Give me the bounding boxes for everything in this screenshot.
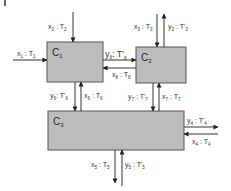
stream-y5-label: y5 : T'5 <box>125 161 145 170</box>
stream-x4-label: x4 : T4 <box>192 138 211 147</box>
stream-x2-label: x2 : T2 <box>48 23 67 32</box>
stream-y6-label: y6: T'6 <box>50 92 68 101</box>
stream-x3: x3 : T3 <box>134 14 157 47</box>
unit-c3: C3 <box>48 111 184 150</box>
stream-y4-label: y4 : T'4 <box>187 117 207 126</box>
stream-y6: y6: T'6 <box>50 82 75 111</box>
stream-y7-label: y7 : T'7 <box>128 93 148 102</box>
stream-y3-label: y3 : T'3 <box>168 23 188 32</box>
stream-y5: y5 : T'5 <box>122 150 145 186</box>
unit-c2: C2 <box>136 47 186 83</box>
stream-x7: x7 : T7 <box>159 83 181 111</box>
stream-x5: x5 : T5 <box>91 150 115 183</box>
unit-c1: C1 <box>47 42 103 82</box>
stream-y4: y4 : T'4 <box>184 117 218 127</box>
stream-y8-label: y8: T'8 <box>105 49 127 61</box>
stream-x3-label: x3 : T3 <box>134 23 153 32</box>
stream-x8: x8 : T8 <box>103 68 136 80</box>
c3-box <box>48 111 184 150</box>
stream-y3: y3 : T'3 <box>164 14 188 47</box>
stream-x1: x1 : T1 <box>13 50 47 60</box>
stream-x2: x2 : T2 <box>48 12 73 42</box>
stream-x7-label: x7 : T7 <box>162 93 181 102</box>
stream-y8: y8: T'8 <box>103 49 136 61</box>
process-diagram: C1 C2 C3 x1 : T1 x2 : T2 x3 : T3 y3 : T'… <box>0 0 231 191</box>
stream-x5-label: x5 : T5 <box>91 161 110 170</box>
stream-x4: x4 : T4 <box>184 134 218 147</box>
stream-x8-label: x8 : T8 <box>112 71 131 80</box>
stream-x6: x6 : T6 <box>81 82 103 111</box>
stream-y7: y7 : T'7 <box>128 83 153 111</box>
stream-x6-label: x6 : T6 <box>84 92 103 101</box>
stream-x1-label: x1 : T1 <box>17 50 36 59</box>
